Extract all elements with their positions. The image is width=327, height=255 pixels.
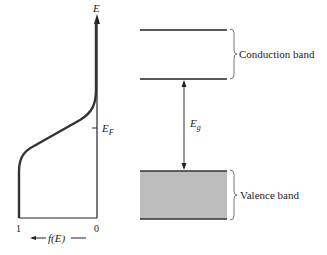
band-diagram-figure: E EF 1 0 f(E) Conduction band Eg Valence… [0,0,327,255]
band-gap-label: Eg [189,117,201,132]
valence-brace-icon [230,170,237,220]
fermi-level-label: EF [101,122,114,137]
occupancy-axis-label: f(E) [48,232,65,245]
valence-band-fill [140,171,227,219]
conduction-band-label: Conduction band [239,48,315,60]
f-axis-arrow-icon [30,236,36,240]
fermi-dirac-curve [19,22,96,218]
energy-axis-label: E [92,2,100,14]
tick-label-one: 1 [16,223,21,234]
tick-label-zero: 0 [94,223,99,234]
fermi-dirac-plot: E EF 1 0 f(E) [16,2,114,245]
energy-band-diagram: Conduction band Eg Valence band [140,29,315,220]
conduction-brace-icon [230,29,237,79]
band-gap-arrow-down-icon [182,163,187,170]
band-gap-arrow-up-icon [182,80,187,87]
valence-band-label: Valence band [240,189,299,201]
